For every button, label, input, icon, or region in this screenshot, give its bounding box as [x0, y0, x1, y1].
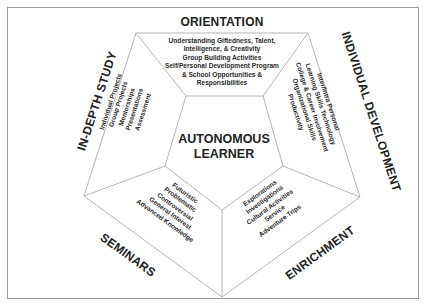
list-item: & School Opportunities & [150, 71, 294, 79]
list-item: Intelligence, & Creativity [150, 45, 294, 53]
list-item: Group Building Activities [150, 54, 294, 62]
list-item: Responsibilities [150, 79, 294, 87]
center-line-2: LEARNER [174, 147, 274, 162]
center-label: AUTONOMOUS LEARNER [174, 132, 274, 162]
list-item: Understanding Giftedness, Talent, [150, 37, 294, 45]
list-item: Self/Personal Development Program [150, 62, 294, 70]
center-line-1: AUTONOMOUS [174, 132, 274, 147]
section-items-orientation: Understanding Giftedness, Talent, Intell… [150, 37, 294, 87]
section-title-orientation: ORIENTATION [172, 15, 272, 29]
